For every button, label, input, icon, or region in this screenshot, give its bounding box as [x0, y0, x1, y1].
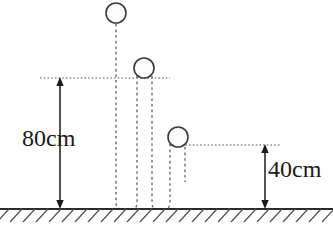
dimension-arrows [56, 77, 268, 209]
ball-rebound-2 [168, 127, 188, 147]
trajectory-initial-drop [116, 24, 122, 209]
reference-lines [40, 78, 280, 145]
balls [106, 3, 188, 147]
ball-initial [106, 3, 126, 23]
measurement-label-40cm: 40cm [268, 157, 321, 181]
physics-diagram: 80cm 40cm [0, 0, 333, 229]
measurement-label-80cm: 80cm [22, 126, 75, 150]
trajectory-rebound-1-up [131, 76, 137, 209]
ball-trajectories [116, 24, 185, 209]
diagram-canvas [0, 0, 333, 229]
ground [0, 209, 333, 222]
ball-rebound-1 [134, 58, 154, 78]
trajectory-rebound-2-up [164, 144, 170, 209]
ground-hatching [0, 209, 333, 222]
trajectory-rebound-1-down [152, 76, 158, 209]
